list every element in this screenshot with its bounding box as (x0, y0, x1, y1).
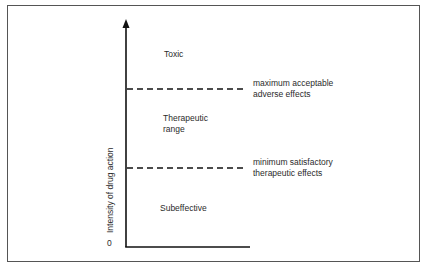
arrow-up-icon (123, 19, 130, 28)
region-label-subeffective: Subeffective (160, 203, 207, 214)
diagram-canvas (0, 0, 428, 270)
threshold-label-upper-line1: maximum acceptable (253, 78, 333, 89)
y-axis-origin-label: 0 (107, 238, 112, 249)
region-label-toxic: Toxic (164, 49, 183, 60)
threshold-label-upper-line2: adverse effects (253, 89, 311, 100)
threshold-label-lower-line2: therapeutic effects (253, 168, 322, 179)
region-label-therapeutic-line2: range (163, 124, 185, 135)
threshold-label-lower-line1: minimum satisfactory (253, 157, 333, 168)
y-axis-label: Intensity of drug action (105, 147, 115, 233)
region-label-therapeutic-line1: Therapeutic (163, 113, 208, 124)
